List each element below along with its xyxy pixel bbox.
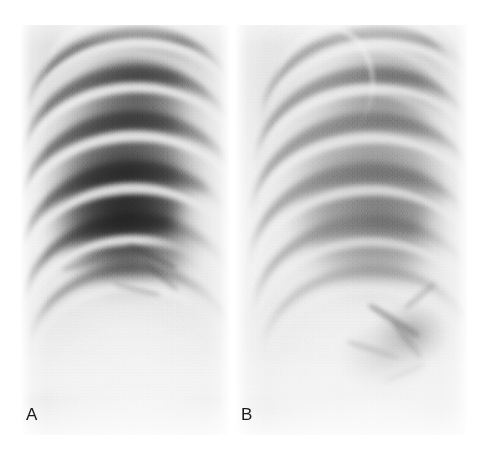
radiograph-panel-a[interactable] bbox=[21, 25, 229, 435]
diaphragm-b bbox=[236, 297, 467, 401]
diaphragm-a bbox=[21, 293, 229, 393]
radiograph-figure: A B bbox=[0, 0, 492, 455]
panel-label-a: A bbox=[26, 406, 38, 423]
radiograph-panel-b[interactable] bbox=[236, 25, 467, 435]
panel-label-b: B bbox=[241, 406, 253, 423]
